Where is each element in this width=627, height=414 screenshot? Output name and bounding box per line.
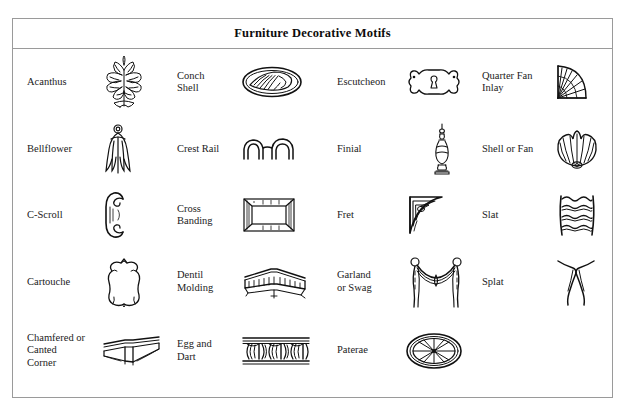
motif-label: Paterae xyxy=(337,344,405,357)
c-scroll-icon xyxy=(101,182,175,249)
motif-cell-bellflower: Bellflower xyxy=(13,116,175,183)
motif-label: Cross Banding xyxy=(177,203,241,228)
motif-cell-quarter-fan-inlay: Quarter Fan Inlay xyxy=(478,49,612,116)
motif-cell-escutcheon: Escutcheon xyxy=(331,49,478,116)
garland-swag-icon xyxy=(405,249,478,316)
dentil-molding-icon xyxy=(241,249,331,316)
motif-label: Acanthus xyxy=(27,76,101,89)
motif-label: Conch Shell xyxy=(177,70,241,95)
motif-chart-page: Furniture Decorative Motifs Acanthus xyxy=(0,0,627,414)
motif-label: Finial xyxy=(337,143,405,156)
motif-cell-shell-or-fan: Shell or Fan xyxy=(478,116,612,183)
motif-cell-acanthus: Acanthus xyxy=(13,49,175,116)
motif-label: Slat xyxy=(482,209,554,222)
table-row: Cartouche xyxy=(13,249,612,316)
escutcheon-keyhole-plate-icon xyxy=(405,49,478,116)
motif-cell-egg-and-dart: Egg and Dart xyxy=(175,315,331,386)
motif-label: Dentil Molding xyxy=(177,269,241,294)
cartouche-icon xyxy=(101,249,175,316)
table-row: C-Scroll xyxy=(13,182,612,249)
motif-label: Chamfered or Canted Corner xyxy=(27,332,101,370)
motif-cell-crest-rail: Crest Rail xyxy=(175,116,331,183)
motif-label: Egg and Dart xyxy=(177,338,241,363)
egg-and-dart-icon xyxy=(241,315,331,386)
motif-label: Shell or Fan xyxy=(482,143,554,156)
splat-icon xyxy=(554,249,612,316)
motif-cell-dentil-molding: Dentil Molding xyxy=(175,249,331,316)
motif-grid: Acanthus xyxy=(13,49,612,397)
fret-bracket-icon xyxy=(405,182,478,249)
motif-label: Crest Rail xyxy=(177,143,241,156)
finial-icon xyxy=(405,116,478,183)
table-row: Chamfered or Canted Corner xyxy=(13,315,612,386)
motif-cell-cross-banding: Cross Banding xyxy=(175,182,331,249)
motif-label: Garland or Swag xyxy=(337,269,405,294)
motif-label: Cartouche xyxy=(27,276,101,289)
table-row: Acanthus xyxy=(13,49,612,116)
motif-label: Quarter Fan Inlay xyxy=(482,70,554,95)
motif-cell-paterae: Paterae xyxy=(331,315,478,386)
motif-table: Furniture Decorative Motifs Acanthus xyxy=(12,18,613,398)
table-row: Bellflower xyxy=(13,116,612,183)
motif-cell-fret: Fret xyxy=(331,182,478,249)
conch-shell-icon xyxy=(241,49,331,116)
motif-cell-chamfered-canted-corner: Chamfered or Canted Corner xyxy=(13,315,175,386)
bellflower-icon xyxy=(101,116,175,183)
motif-cell-garland-or-swag: Garland or Swag xyxy=(331,249,478,316)
motif-cell-conch-shell: Conch Shell xyxy=(175,49,331,116)
cross-banding-icon xyxy=(241,182,331,249)
acanthus-leaf-icon xyxy=(101,49,175,116)
table-header: Furniture Decorative Motifs xyxy=(13,19,612,49)
shell-or-fan-icon xyxy=(554,116,612,183)
motif-label: Escutcheon xyxy=(337,76,405,89)
motif-label: Splat xyxy=(482,276,554,289)
motif-label: Fret xyxy=(337,209,405,222)
quarter-fan-inlay-icon xyxy=(554,49,612,116)
paterae-rosette-icon xyxy=(405,315,478,386)
chamfered-canted-corner-icon xyxy=(101,315,175,386)
motif-cell-cartouche: Cartouche xyxy=(13,249,175,316)
page-title: Furniture Decorative Motifs xyxy=(234,26,391,41)
slat-ladderback-icon xyxy=(554,182,612,249)
motif-cell-splat: Splat xyxy=(478,249,612,316)
crest-rail-icon xyxy=(241,116,331,183)
motif-cell-finial: Finial xyxy=(331,116,478,183)
motif-label: Bellflower xyxy=(27,143,101,156)
motif-label: C-Scroll xyxy=(27,209,101,222)
motif-cell-c-scroll: C-Scroll xyxy=(13,182,175,249)
motif-cell-slat: Slat xyxy=(478,182,612,249)
